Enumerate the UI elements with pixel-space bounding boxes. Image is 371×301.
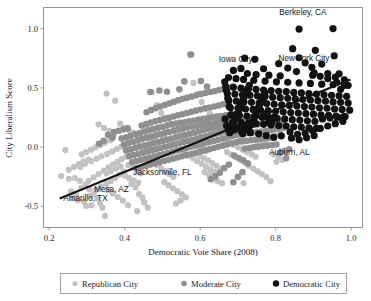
data-point [253, 154, 259, 160]
legend-items: Republican CityModerate CityDemocratic C… [72, 279, 340, 289]
data-point [307, 80, 314, 87]
data-point [263, 132, 270, 139]
data-point [271, 101, 278, 108]
data-point [302, 110, 309, 117]
y-tick-label: -0.5 [25, 201, 38, 211]
data-point [295, 109, 302, 116]
data-point [232, 75, 239, 82]
data-point [255, 130, 262, 137]
data-point [323, 105, 330, 112]
data-point [286, 128, 293, 135]
data-point [226, 161, 233, 168]
data-point [304, 117, 311, 124]
data-point [346, 107, 353, 114]
data-point [310, 111, 317, 118]
data-point [335, 92, 342, 99]
data-point [262, 77, 269, 84]
data-point [314, 97, 321, 104]
data-point [246, 82, 253, 89]
data-point [124, 125, 131, 132]
data-point [260, 65, 267, 72]
data-point [298, 89, 305, 96]
data-point [289, 45, 296, 52]
data-point [287, 109, 294, 116]
x-tick-label: 1.0 [346, 233, 357, 243]
data-point [224, 95, 231, 102]
data-point [337, 86, 344, 93]
data-point [324, 75, 331, 82]
data-point [345, 99, 352, 106]
data-point [227, 111, 234, 118]
data-point [199, 99, 205, 105]
data-point [329, 98, 336, 105]
legend-marker [273, 280, 279, 286]
data-point [273, 78, 280, 85]
data-point [317, 73, 324, 80]
data-point [273, 141, 280, 148]
data-point [247, 129, 254, 136]
city-annotation: Iowa City [219, 55, 254, 64]
data-point [278, 132, 285, 139]
data-point [265, 72, 272, 79]
data-point [230, 179, 237, 186]
data-point [269, 94, 276, 101]
city-annotation: Berkeley, CA [279, 8, 327, 17]
data-point [268, 87, 275, 94]
data-point [156, 87, 163, 94]
data-point [301, 103, 308, 110]
data-point [283, 122, 290, 129]
data-point [134, 208, 140, 214]
data-point [239, 169, 246, 176]
data-point [270, 134, 277, 141]
data-point [293, 68, 300, 75]
data-point [223, 86, 230, 93]
legend-label[interactable]: Republican City [82, 279, 139, 289]
data-point [240, 76, 247, 83]
x-axis-title: Democratic Vote Share (2008) [148, 247, 257, 257]
legend-label[interactable]: Democratic City [283, 279, 341, 289]
y-axis-title: City Liberalism Score [4, 78, 14, 157]
data-point [280, 108, 287, 115]
data-point [316, 104, 323, 111]
data-point [288, 135, 295, 142]
city-annotation: Jacksonville, FL [133, 168, 192, 177]
data-point [322, 98, 329, 105]
data-point [270, 114, 277, 121]
x-tick-label: 0.2 [44, 233, 55, 243]
data-point [281, 115, 288, 122]
data-point [183, 194, 189, 200]
data-point [324, 122, 331, 129]
legend-label[interactable]: Moderate City [191, 279, 242, 289]
data-point [219, 180, 225, 186]
data-point [283, 88, 290, 95]
data-point [147, 89, 154, 96]
data-point [62, 147, 68, 153]
data-point [101, 125, 107, 131]
data-point [115, 194, 121, 200]
data-point [289, 116, 296, 123]
city-annotation: Auburn, AL [269, 148, 310, 157]
data-point [252, 86, 259, 93]
data-point [296, 117, 303, 124]
data-point [58, 173, 64, 179]
data-point [284, 95, 291, 102]
data-point [295, 25, 302, 32]
data-point [244, 70, 251, 77]
data-point [158, 110, 164, 116]
data-point [298, 124, 305, 131]
data-point [275, 122, 282, 129]
data-point [226, 103, 233, 110]
legend-marker [72, 281, 77, 286]
y-tick-label: 0.5 [27, 83, 38, 93]
data-point [198, 78, 205, 85]
data-point [125, 202, 131, 208]
data-point [243, 112, 250, 119]
data-point [164, 88, 171, 95]
data-point [190, 80, 196, 86]
data-point [237, 65, 244, 72]
data-point [173, 201, 179, 207]
data-point [188, 51, 195, 58]
data-point [135, 180, 141, 186]
data-point [231, 90, 238, 97]
city-annotation: Mesa, AZ [94, 185, 129, 194]
